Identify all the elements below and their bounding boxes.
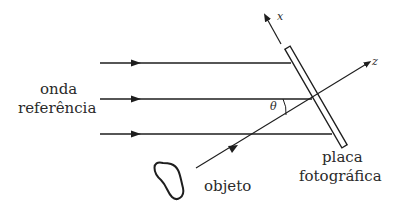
plate-label-line2: fotográfica — [299, 168, 382, 185]
z-axis-label: z — [372, 53, 378, 70]
reference-ray-arrowheads — [131, 60, 141, 138]
object-label: objeto — [204, 178, 251, 195]
arrowhead-icon — [131, 96, 141, 103]
x-axis-label: x — [277, 8, 283, 25]
angle-theta-label: θ — [270, 98, 277, 115]
angle-theta-arc — [283, 99, 286, 115]
reference-wave-label-line2: referência — [18, 100, 96, 117]
object-shape — [155, 163, 184, 199]
arrowhead-icon — [131, 131, 141, 138]
plate-label-line1: placa — [322, 149, 363, 166]
object-ray-arrowhead-icon — [228, 145, 238, 153]
photographic-plate — [285, 46, 347, 148]
reference-wave-label-line1: onda — [40, 81, 77, 98]
arrowhead-icon — [131, 60, 141, 67]
